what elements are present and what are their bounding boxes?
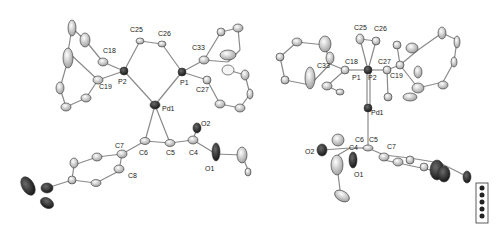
atom-label: C26	[158, 30, 171, 37]
atom-label: C7	[115, 142, 124, 149]
atom-label: O2	[201, 120, 210, 127]
atom-label: C6	[355, 136, 364, 143]
atom-label: O1	[354, 171, 363, 178]
atom-label: P2	[368, 74, 377, 81]
atom-label: C33	[317, 62, 330, 69]
atom-label: C6	[139, 149, 148, 156]
atom-label: P2	[118, 78, 127, 85]
atom-label: C5	[369, 136, 378, 143]
atom-label: C8	[128, 172, 137, 179]
atom-label: C5	[166, 149, 175, 156]
atom-label: O1	[205, 165, 214, 172]
atom-label: C18	[345, 58, 358, 65]
legend-box	[476, 183, 488, 223]
atom-label: C7	[387, 143, 396, 150]
crystal-structure-figure: C25 C26 C18 C19 P2 P1 C33 C27 Pd1 O2 C7 …	[0, 0, 504, 230]
atom-label: C27	[378, 58, 391, 65]
atom-label: P1	[180, 79, 189, 86]
atom-label: C27	[196, 86, 209, 93]
atom-label: Pd1	[371, 109, 384, 116]
atom-label: P1	[352, 74, 361, 81]
atom-label: O2	[305, 148, 314, 155]
atom-label: C19	[390, 72, 403, 79]
atom-label: C25	[130, 26, 143, 33]
atom-label: C4	[349, 144, 358, 151]
atom-label: C19	[99, 83, 112, 90]
atom-label: C25	[354, 24, 367, 31]
atom-label: C26	[374, 25, 387, 32]
atom-label: Pd1	[162, 105, 175, 112]
atom-label: C18	[103, 47, 116, 54]
atom-label: C33	[192, 44, 205, 51]
atom-label: C4	[189, 149, 198, 156]
